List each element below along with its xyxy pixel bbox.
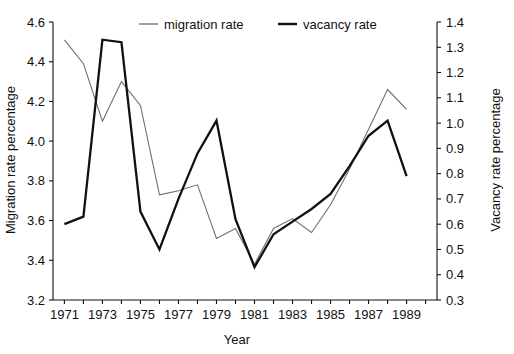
left-axis-tick-label: 3.8	[27, 173, 45, 188]
x-axis-tick-label: 1987	[354, 307, 383, 322]
chart-figure: migration ratevacancy rate 3.23.43.63.84…	[0, 0, 514, 354]
right-axis-tick-label: 1.3	[446, 40, 464, 55]
left-axis-tick-label: 4.6	[27, 15, 45, 30]
right-axis-tick-label: 0.6	[446, 217, 464, 232]
y-axis-label-right: Vacancy rate percentage	[488, 88, 503, 232]
x-axis-tick-label: 1985	[316, 307, 345, 322]
right-axis-tick-label: 1.2	[446, 65, 464, 80]
chart-canvas: migration ratevacancy rate 3.23.43.63.84…	[0, 0, 514, 354]
x-axis-tick-label: 1989	[392, 307, 421, 322]
right-axis-tick-label: 0.4	[446, 267, 464, 282]
left-axis-tick-label: 4.4	[27, 54, 45, 69]
left-axis-tick-label: 3.6	[27, 213, 45, 228]
left-axis-tick-label: 3.2	[27, 293, 45, 308]
right-axis-tick-label: 1.4	[446, 15, 464, 30]
right-axis-tick-label: 0.7	[446, 191, 464, 206]
x-axis-tick-label: 1979	[202, 307, 231, 322]
left-axis-tick-label: 3.4	[27, 253, 45, 268]
caption-strip	[0, 344, 514, 354]
y-axis-label-left: Migration rate percentage	[3, 86, 18, 234]
right-axis-tick-label: 0.8	[446, 166, 464, 181]
x-axis-tick-label: 1975	[126, 307, 155, 322]
legend-label: vacancy rate	[303, 17, 377, 32]
x-axis-tick-label: 1971	[50, 307, 79, 322]
left-axis-tick-label: 4.0	[27, 134, 45, 149]
x-axis-tick-label: 1973	[88, 307, 117, 322]
left-axis-tick-label: 4.2	[27, 94, 45, 109]
right-axis-tick-label: 1.1	[446, 90, 464, 105]
right-axis-tick-label: 1.0	[446, 116, 464, 131]
right-axis-tick-label: 0.5	[446, 242, 464, 257]
right-axis-tick-label: 0.9	[446, 141, 464, 156]
x-axis-tick-label: 1977	[164, 307, 193, 322]
x-axis-tick-label: 1981	[240, 307, 269, 322]
x-axis-tick-label: 1983	[278, 307, 307, 322]
right-axis-tick-label: 0.3	[446, 293, 464, 308]
legend-label: migration rate	[164, 17, 243, 32]
